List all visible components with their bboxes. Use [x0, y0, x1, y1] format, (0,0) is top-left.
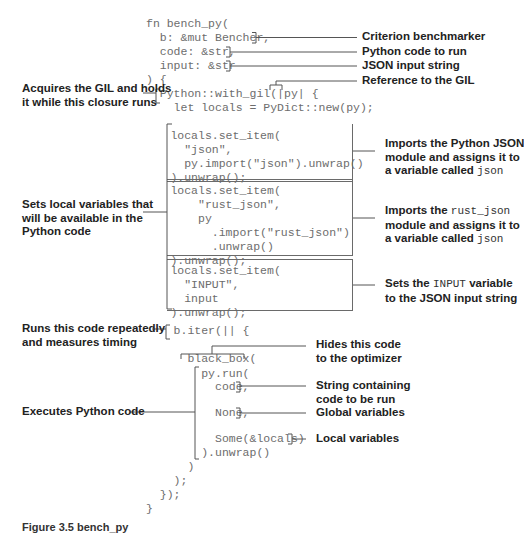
note-iter-line2: and measures timing	[22, 336, 165, 350]
inline-code-input: INPUT	[433, 278, 466, 290]
note-reference-to-gil: Reference to the GIL	[362, 74, 474, 88]
note-import-json-line2: module and assigns it to	[385, 151, 524, 165]
note-import-rust-line1: Imports the rust_json	[385, 204, 520, 219]
note-acquires-gil: Acquires the GIL and holds it while this…	[22, 82, 171, 109]
note-sets-locals: Sets local variables that will be availa…	[22, 198, 153, 239]
note-black-box-line2: to the optimizer	[316, 352, 402, 366]
note-text: Imports the	[385, 204, 451, 216]
note-black-box: Hides this code to the optimizer	[316, 338, 402, 365]
note-text: variable	[466, 277, 513, 289]
note-iter-line1: Runs this code repeatedly	[22, 322, 165, 336]
note-locals-line1: Sets local variables that	[22, 198, 153, 212]
note-import-rust-line3: a variable called json	[385, 232, 520, 247]
note-code-string: String containing code to be run	[316, 379, 411, 406]
note-python-code-to-run: Python code to run	[362, 45, 467, 59]
note-json-input-string: JSON input string	[362, 59, 460, 73]
note-text: Sets the	[385, 277, 433, 289]
note-global-variables: Global variables	[316, 406, 405, 420]
note-import-rust-line2: module and assigns it to	[385, 219, 520, 233]
note-gil-line2: it while this closure runs	[22, 96, 171, 110]
note-import-json-line1: Imports the Python JSON	[385, 137, 524, 151]
note-runs-repeatedly: Runs this code repeatedly and measures t…	[22, 322, 165, 349]
note-input-variable: Sets the INPUT variable to the JSON inpu…	[385, 277, 517, 305]
note-criterion-benchmarker: Criterion benchmarker	[362, 30, 485, 44]
inline-code-json: json	[477, 233, 503, 245]
inline-code-rust-json: rust_json	[451, 205, 510, 217]
note-code-string-line2: code to be run	[316, 393, 411, 407]
note-executes-python: Executes Python code	[22, 405, 145, 419]
note-input-line1: Sets the INPUT variable	[385, 277, 517, 292]
note-input-line2: to the JSON input string	[385, 292, 517, 306]
figure-caption: Figure 3.5 bench_py	[22, 521, 128, 533]
note-gil-line1: Acquires the GIL and holds	[22, 82, 171, 96]
note-import-json-line3: a variable called json	[385, 164, 524, 179]
note-locals-line3: Python code	[22, 225, 153, 239]
note-black-box-line1: Hides this code	[316, 338, 402, 352]
note-text: a variable called	[385, 164, 477, 176]
note-local-variables: Local variables	[316, 432, 399, 446]
note-code-string-line1: String containing	[316, 379, 411, 393]
note-import-rust-json: Imports the rust_json module and assigns…	[385, 204, 520, 247]
inline-code-json: json	[477, 165, 503, 177]
note-locals-line2: will be available in the	[22, 212, 153, 226]
note-import-json: Imports the Python JSON module and assig…	[385, 137, 524, 179]
note-text: a variable called	[385, 232, 477, 244]
